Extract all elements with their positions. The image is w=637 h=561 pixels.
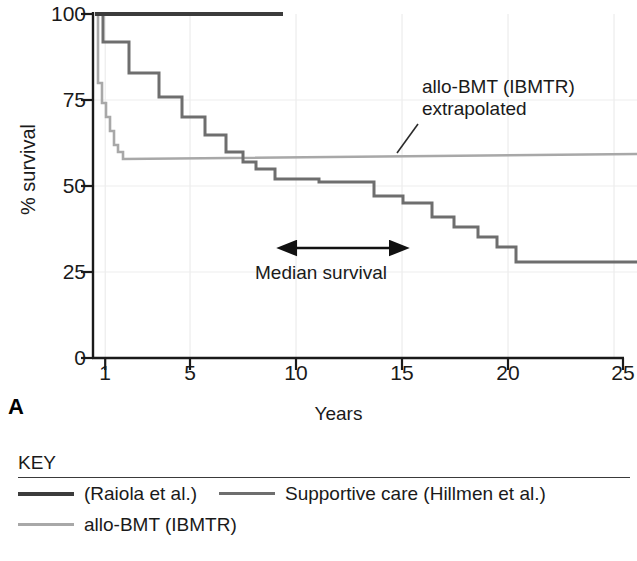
chart-plot-area: 100 75 50 25 0 % survival allo-BMT (IBMT… xyxy=(0,0,637,380)
chart-key: KEY (Raiola et al.) Supportive care (Hil… xyxy=(18,452,630,540)
x-tick-label-1: 1 xyxy=(99,362,111,383)
series-line-supportive-care xyxy=(95,14,637,262)
x-tick-label-10: 10 xyxy=(284,362,307,383)
panel-label: A xyxy=(8,394,24,420)
key-label-supportive-care: Supportive care (Hillmen et al.) xyxy=(285,483,546,505)
key-title: KEY xyxy=(18,452,630,477)
x-tick-label-25: 25 xyxy=(611,362,634,383)
gridlines-horizontal xyxy=(93,100,637,272)
key-row-2: allo-BMT (IBMTR) xyxy=(18,509,630,540)
x-tick-label-5: 5 xyxy=(184,362,196,383)
y-tick-label-50: 50 xyxy=(40,175,86,196)
annotation-allo-bmt-extrapolated: allo-BMT (IBMTR) extrapolated xyxy=(422,76,575,120)
annotation-allo-bmt-line2: extrapolated xyxy=(422,98,575,120)
x-tick-label-15: 15 xyxy=(390,362,413,383)
key-label-allo-bmt: allo-BMT (IBMTR) xyxy=(84,514,237,536)
y-tick-label-75: 75 xyxy=(40,89,86,110)
annotation-leader-line xyxy=(397,124,418,153)
annotation-allo-bmt-line1: allo-BMT (IBMTR) xyxy=(422,76,575,98)
y-axis-title: % survival xyxy=(17,90,40,250)
y-tick-label-100: 100 xyxy=(40,3,86,24)
x-tick-label-20: 20 xyxy=(496,362,519,383)
key-swatch-raiola-icon xyxy=(18,492,74,496)
key-item-raiola: (Raiola et al.) xyxy=(18,483,197,505)
x-axis-title: Years xyxy=(0,403,637,425)
key-item-supportive-care: Supportive care (Hillmen et al.) xyxy=(219,483,546,505)
survival-figure: 100 75 50 25 0 % survival allo-BMT (IBMT… xyxy=(0,0,637,561)
key-row-1: (Raiola et al.) Supportive care (Hillmen… xyxy=(18,478,630,509)
key-swatch-supportive-care-icon xyxy=(219,492,275,495)
y-tick-label-25: 25 xyxy=(40,261,86,282)
survival-curves-svg xyxy=(0,0,637,380)
key-swatch-allo-bmt-icon xyxy=(18,523,74,526)
key-item-allo-bmt: allo-BMT (IBMTR) xyxy=(18,514,237,536)
x-tick-labels: 1 5 10 15 20 25 xyxy=(0,362,637,396)
annotation-median-survival: Median survival xyxy=(255,262,387,284)
key-label-raiola: (Raiola et al.) xyxy=(84,483,197,505)
